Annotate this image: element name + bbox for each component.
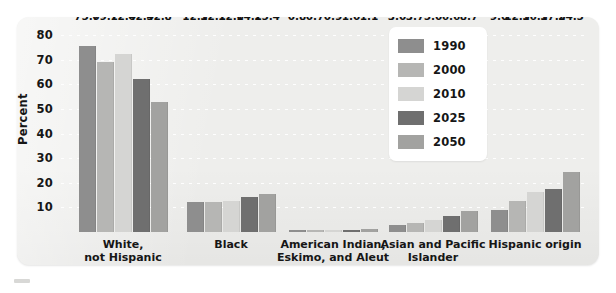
y-axis-title: Percent: [17, 93, 30, 145]
legend-item-label: 2025: [433, 111, 466, 125]
legend-item: 1990: [398, 36, 479, 56]
bar-value-label: 24.5: [558, 17, 584, 22]
plot-area: 75.769.172.462.452.812.312.112.614.215.4…: [61, 23, 589, 232]
bar-group: 9.012.516.317.524.5: [485, 23, 585, 232]
page-corner-mark: [14, 279, 30, 283]
bar-value-label: 1.0: [342, 17, 360, 22]
bar: 0.9: [325, 230, 342, 232]
bar: 12.6: [223, 201, 240, 232]
bar: 52.8: [151, 102, 168, 232]
x-axis-category-label: White, not Hispanic: [63, 238, 183, 264]
bar-column: 9.0: [491, 23, 508, 232]
y-axis-tick-label: 10: [37, 200, 53, 214]
bar: 1.0: [343, 230, 360, 232]
bar-column: 62.4: [133, 23, 150, 232]
chart-panel: 75.769.172.462.452.812.312.112.614.215.4…: [17, 17, 599, 265]
bar: 12.3: [187, 202, 204, 232]
bar-column: 0.7: [307, 23, 324, 232]
chart-legend: 19902000201020252050: [389, 27, 487, 161]
legend-item-label: 2000: [433, 63, 466, 77]
bar-value-label: 0.9: [324, 17, 342, 22]
y-axis-tick-label: 50: [37, 102, 53, 116]
bar-value-label: 6.6: [442, 17, 460, 22]
y-axis-tick-label: 70: [37, 53, 53, 67]
y-axis-tick-label: 40: [37, 127, 53, 141]
legend-item-label: 2050: [433, 135, 466, 149]
bar-value-label: 52.8: [146, 17, 172, 22]
y-axis-tick-label: 20: [37, 176, 53, 190]
bar: 0.8: [289, 230, 306, 232]
bar-column: 14.2: [241, 23, 258, 232]
legend-color-swatch: [398, 63, 424, 77]
bar: 12.5: [509, 201, 526, 232]
bar-column: 12.1: [205, 23, 222, 232]
bar-group-bars: 9.012.516.317.524.5: [485, 23, 585, 232]
legend-color-swatch: [398, 87, 424, 101]
legend-item: 2025: [398, 108, 479, 128]
bar: 24.5: [563, 172, 580, 232]
bar-column: 0.8: [289, 23, 306, 232]
bar: 12.1: [205, 202, 222, 232]
bar-column: 0.9: [325, 23, 342, 232]
bar-column: 24.5: [563, 23, 580, 232]
legend-item: 2000: [398, 60, 479, 80]
bar: 17.5: [545, 189, 562, 232]
bar-column: 75.7: [79, 23, 96, 232]
bar: 6.6: [443, 216, 460, 232]
y-axis-tick-label: 30: [37, 151, 53, 165]
bar: 72.4: [115, 54, 132, 232]
bar-value-label: 5.0: [424, 17, 442, 22]
bar-column: 72.4: [115, 23, 132, 232]
bar-value-label: 3.7: [406, 17, 424, 22]
bar-value-label: 8.7: [460, 17, 478, 22]
bar: 1.1: [361, 229, 378, 232]
bar-group: 0.80.70.91.01.1: [283, 23, 383, 232]
bar-value-label: 1.1: [360, 17, 378, 22]
bar-column: 15.4: [259, 23, 276, 232]
y-axis-tick-label: 80: [37, 28, 53, 42]
bar-value-label: 3.0: [388, 17, 406, 22]
bar-column: 16.3: [527, 23, 544, 232]
bar-group: 75.769.172.462.452.8: [73, 23, 173, 232]
bar: 3.7: [407, 223, 424, 232]
bar-column: 1.1: [361, 23, 378, 232]
legend-color-swatch: [398, 135, 424, 149]
bar-group-bars: 0.80.70.91.01.1: [283, 23, 383, 232]
bar-value-label: 0.7: [306, 17, 324, 22]
bar-group: 12.312.112.614.215.4: [181, 23, 281, 232]
bar-column: 12.3: [187, 23, 204, 232]
legend-item-label: 2010: [433, 87, 466, 101]
bar-column: 69.1: [97, 23, 114, 232]
bar-group-bars: 12.312.112.614.215.4: [181, 23, 281, 232]
bar: 3.0: [389, 225, 406, 232]
bar: 15.4: [259, 194, 276, 232]
bar-column: 12.6: [223, 23, 240, 232]
x-axis-category-label: Hispanic origin: [475, 238, 595, 251]
bar: 9.0: [491, 210, 508, 232]
legend-color-swatch: [398, 111, 424, 125]
bar-column: 17.5: [545, 23, 562, 232]
bar-value-label: 0.8: [288, 17, 306, 22]
y-axis-tick-label: 60: [37, 77, 53, 91]
legend-item-label: 1990: [433, 39, 466, 53]
bar-column: 1.0: [343, 23, 360, 232]
bar-value-label: 15.4: [254, 17, 280, 22]
bar: 75.7: [79, 46, 96, 232]
bar: 0.7: [307, 230, 324, 232]
legend-item: 2010: [398, 84, 479, 104]
bar: 5.0: [425, 220, 442, 232]
bar: 69.1: [97, 62, 114, 232]
bar: 14.2: [241, 197, 258, 232]
bar: 8.7: [461, 211, 478, 232]
bar-column: 52.8: [151, 23, 168, 232]
bar-column: 12.5: [509, 23, 526, 232]
legend-item: 2050: [398, 132, 479, 152]
bar: 16.3: [527, 192, 544, 232]
chart-page: 75.769.172.462.452.812.312.112.614.215.4…: [0, 0, 616, 293]
bar-group-bars: 75.769.172.462.452.8: [73, 23, 173, 232]
legend-color-swatch: [398, 39, 424, 53]
bar: 62.4: [133, 79, 150, 232]
